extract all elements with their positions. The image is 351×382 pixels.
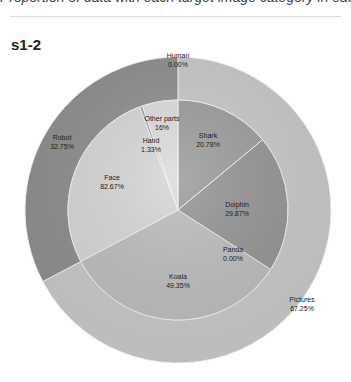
label-shark-value: 20.78% [196,141,220,148]
label-robot-name: Robot [53,134,72,141]
label-pictures-name: Pictures [289,296,315,303]
label-koala-value: 49.35% [166,282,190,289]
label-other-parts-name: Other parts [144,115,180,123]
label-hand-value: 1.33% [141,146,161,153]
label-hand-name: Hand [143,137,160,144]
label-human-value: 0.00% [168,61,188,68]
label-other-parts-value: 16% [155,124,169,131]
sunburst-chart: Human 0.00% Pictures 67.25% Robot 32.75%… [0,0,351,382]
label-robot-value: 32.75% [50,143,74,150]
label-face-name: Face [104,174,120,181]
label-dolphin-value: 29.87% [225,210,249,217]
label-panda-value: 0.00% [223,255,243,262]
label-pictures-value: 67.25% [290,305,314,312]
shading-overlay [25,57,331,363]
label-shark-name: Shark [199,132,218,139]
label-face-value: 82.67% [100,183,124,190]
label-human-name: Human [167,52,190,59]
label-dolphin-name: Dolphin [225,201,249,209]
label-panda-name: Panda [223,246,243,253]
label-koala-name: Koala [169,273,187,280]
